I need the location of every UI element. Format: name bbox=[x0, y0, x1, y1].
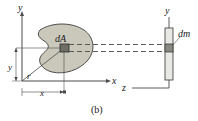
label-mass-element: dm bbox=[178, 28, 190, 39]
mass-element-dm bbox=[165, 44, 173, 52]
label-radius: r bbox=[27, 71, 31, 81]
figure-container: y x dA y x r y z dm (b) bbox=[0, 0, 198, 121]
left-x-axis bbox=[22, 79, 111, 83]
label-right-y-axis: y bbox=[164, 5, 170, 16]
label-x-distance: x bbox=[39, 88, 44, 98]
rod-shape bbox=[165, 28, 173, 80]
x-dimension bbox=[22, 88, 66, 96]
y-dimension bbox=[12, 48, 22, 81]
label-area-element: dA bbox=[55, 33, 67, 44]
left-y-axis bbox=[20, 11, 24, 81]
label-z-axis: z bbox=[121, 82, 126, 93]
figure-caption: (b) bbox=[91, 104, 103, 116]
label-left-y-axis: y bbox=[17, 2, 23, 13]
label-y-distance: y bbox=[7, 62, 12, 72]
label-left-x-axis: x bbox=[111, 75, 117, 86]
area-element-dA bbox=[60, 44, 69, 52]
mechanics-diagram: y x dA y x r y z dm (b) bbox=[0, 0, 198, 121]
